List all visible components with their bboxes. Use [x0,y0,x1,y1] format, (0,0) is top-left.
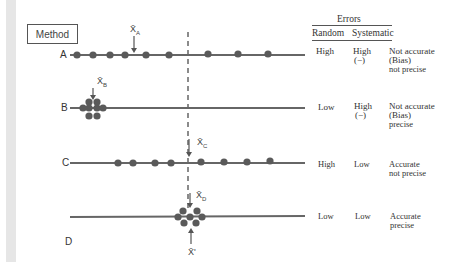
errors-header-rule [312,25,392,26]
true-value-label: X̄' [188,247,196,257]
column-header-rule [312,40,392,41]
row-d-desc-2: precise [390,220,414,230]
errors-header: Errors [337,14,361,24]
row-label-c: C [62,157,69,168]
row-a-desc-3: not precise [389,64,426,74]
row-a-line [70,36,305,59]
row-label-b: B [61,102,68,113]
mean-label-b: X̄B [97,76,107,88]
mean-label-c: X̄C [197,137,207,149]
random-column-header: Random [312,28,344,38]
row-label-d: D [65,236,72,247]
row-b-random: Low [318,102,335,112]
row-b-desc-3: precise [389,119,413,129]
systematic-column-header: Systematic [352,28,394,38]
row-b-systematic-sign: (−) [355,110,366,120]
method-label-box: Method [27,24,78,44]
row-d-line [70,193,305,244]
row-d-systematic: Low [355,211,371,221]
row-c-random: High [318,159,335,169]
row-c-systematic: Low [354,159,370,169]
mean-label-a: X̄A [130,24,140,36]
row-a-systematic-sign: (−) [354,55,365,65]
row-label-a: A [60,49,67,60]
row-d-random: Low [318,211,334,221]
mean-label-d: X̄D [196,190,206,202]
row-a-random: High [316,46,334,56]
row-c-desc-2: not precise [389,168,426,178]
